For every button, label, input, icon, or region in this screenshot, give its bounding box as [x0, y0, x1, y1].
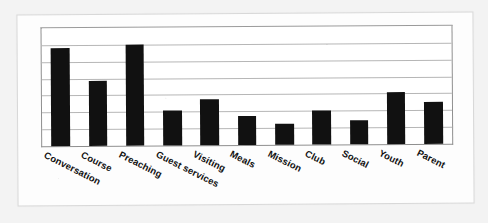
bar [387, 92, 406, 144]
bar [424, 102, 443, 144]
x-axis-label: Parent [415, 147, 447, 170]
bar [51, 48, 70, 146]
bar [125, 44, 144, 145]
bar [88, 81, 107, 146]
x-axis-label: Mission [266, 148, 303, 174]
x-axis-label: Club [303, 148, 327, 167]
x-axis-label: Meals [229, 148, 258, 170]
scanned-page-background: ConversationCoursePreachingGuest service… [0, 0, 488, 223]
bar [312, 111, 331, 145]
bar [163, 110, 182, 145]
bar [275, 124, 294, 145]
bar [238, 115, 257, 145]
x-axis-category-labels: ConversationCoursePreachingGuest service… [41, 147, 453, 202]
chart-figure-card: ConversationCoursePreachingGuest service… [16, 12, 474, 207]
chart-frame: ConversationCoursePreachingGuest service… [27, 21, 460, 196]
bar [350, 120, 369, 144]
bars-layer [42, 26, 453, 147]
x-axis-label: Social [340, 147, 370, 170]
x-axis-label: Youth [378, 147, 407, 169]
plot-area [40, 25, 453, 148]
bar [200, 99, 219, 145]
